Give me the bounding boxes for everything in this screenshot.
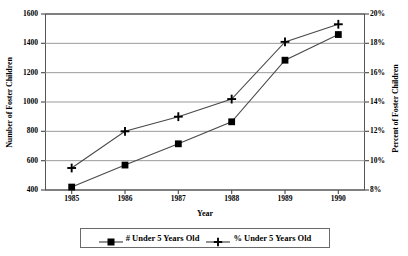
y-axis-left-tick-label: 600 [4, 156, 38, 165]
y-axis-right-tick-label: 14% [370, 97, 404, 106]
x-axis-tick-label: 1989 [265, 194, 305, 203]
y-axis-left-tick-label: 1000 [4, 97, 38, 106]
legend-item-percent: % Under 5 Years Old [206, 233, 311, 243]
series-markers [67, 20, 342, 191]
y-axis-left-tick-label: 400 [4, 185, 38, 194]
y-axis-left-tick-label: 1400 [4, 38, 38, 47]
series-lines [72, 24, 339, 187]
y-axis-right-tick-label: 20% [370, 9, 404, 18]
y-axis-right-tick-label: 18% [370, 38, 404, 47]
x-axis-tick-label: 1986 [105, 194, 145, 203]
y-axis-right-tick-label: 16% [370, 68, 404, 77]
axis-ticks [41, 14, 369, 194]
y-axis-left-tick-label: 1200 [4, 68, 38, 77]
x-axis-tick-label: 1987 [158, 194, 198, 203]
y-axis-right-tick-label: 10% [370, 156, 404, 165]
plus-marker-icon [206, 233, 230, 243]
chart-legend: # Under 5 Years Old % Under 5 Years Old [80, 228, 330, 248]
legend-label-percent: % Under 5 Years Old [233, 233, 311, 243]
legend-label-number: # Under 5 Years Old [126, 233, 200, 243]
y-axis-left-tick-label: 1600 [4, 9, 38, 18]
y-axis-left-tick-label: 800 [4, 126, 38, 135]
y-axis-right-tick-label: 8% [370, 185, 404, 194]
x-axis-tick-label: 1985 [52, 194, 92, 203]
x-axis-tick-label: 1988 [212, 194, 252, 203]
x-axis-tick-label: 1990 [318, 194, 358, 203]
legend-item-number: # Under 5 Years Old [99, 233, 200, 243]
chart-container: Number of Foster Children Percent of Fos… [0, 0, 408, 256]
gridlines [45, 14, 365, 190]
y-axis-right-tick-label: 12% [370, 126, 404, 135]
square-marker-icon [99, 233, 123, 243]
plot-svg [0, 0, 408, 256]
